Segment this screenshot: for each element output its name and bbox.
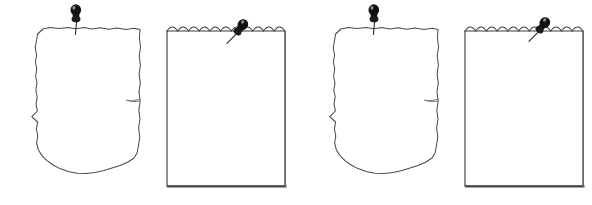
pinned-note-pad-2[interactable] — [164, 0, 288, 205]
torn-paper-outline — [32, 27, 141, 173]
torn-paper-graphic — [14, 0, 146, 205]
pin-highlight — [72, 6, 75, 10]
perforated-top-edge — [465, 27, 583, 31]
torn-paper-graphic — [312, 0, 444, 205]
illustration-canvas — [0, 0, 592, 205]
notepad-outline — [465, 31, 583, 186]
notepad-sheet-graphic — [462, 0, 586, 205]
perforated-top-edge — [167, 27, 285, 31]
pinned-note-torn-3[interactable] — [312, 0, 444, 205]
pinned-note-torn-1[interactable] — [14, 0, 146, 205]
pinned-note-pad-4[interactable] — [462, 0, 586, 205]
notepad-outline — [167, 31, 285, 186]
notepad-sheet-graphic — [164, 0, 288, 205]
pin-highlight — [370, 6, 373, 10]
pin-head — [369, 4, 380, 16]
torn-paper-outline — [330, 27, 439, 173]
pin-head — [71, 4, 82, 16]
